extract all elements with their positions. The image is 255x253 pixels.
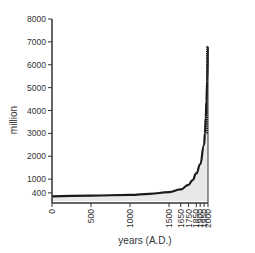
y-axis-ticks: 40010002000300040005000600070008000 [27,14,52,198]
axes [52,19,208,203]
x-axis-label: years (A.D.) [118,235,171,246]
y-tick-label: 5000 [27,83,46,93]
x-tick-label: 1500 [164,209,174,228]
y-tick-label: 3000 [27,128,46,138]
population-area [52,46,208,201]
population-line [52,47,208,197]
chart-svg: 40010002000300040005000600070008000 0500… [0,0,255,253]
y-tick-label: 8000 [27,14,46,24]
area-fill [52,47,208,202]
x-tick-label: 1000 [125,209,135,228]
x-tick-label: 2000 [203,209,213,228]
x-tick-label: 0 [47,209,57,214]
y-tick-label: 400 [32,188,46,198]
y-tick-label: 2000 [27,151,46,161]
population-chart: 40010002000300040005000600070008000 0500… [0,0,255,253]
x-tick-label: 500 [86,209,96,223]
y-tick-label: 6000 [27,60,46,70]
y-tick-label: 4000 [27,106,46,116]
x-axis-ticks: 050010001500165017501850190019502000 [47,203,213,228]
y-axis-label: million [8,106,19,134]
y-tick-label: 7000 [27,37,46,47]
y-tick-label: 1000 [27,174,46,184]
